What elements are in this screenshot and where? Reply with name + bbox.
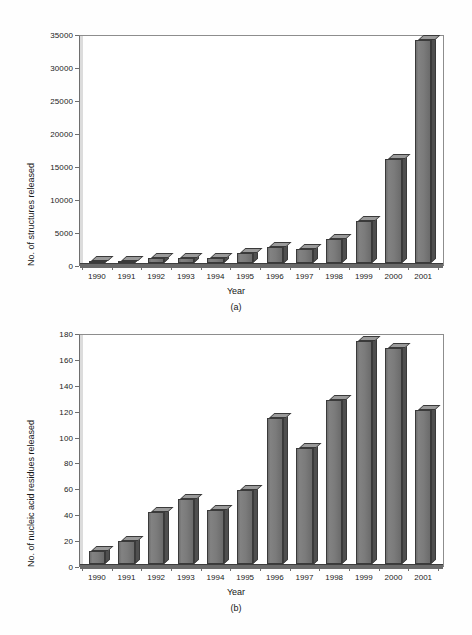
y-tick-label: 5000	[55, 229, 73, 238]
y-tick-mark	[75, 68, 79, 69]
bar-1998	[326, 400, 343, 564]
figure-caption-a: (a)	[0, 302, 472, 312]
bar-front-face	[385, 348, 402, 564]
y-tick-label: 0	[68, 563, 73, 572]
x-tick-label: 1996	[266, 573, 284, 582]
figure-caption-b: (b)	[0, 603, 472, 613]
y-tick-mark	[75, 134, 79, 135]
bar-1995	[237, 490, 254, 564]
bar-1990	[89, 551, 106, 564]
y-tick-mark	[75, 515, 79, 516]
y-tick-mark	[75, 438, 79, 439]
bar-1996	[267, 247, 284, 264]
x-tick-label: 1992	[147, 573, 165, 582]
backwall-a	[80, 36, 83, 265]
bar-1997	[296, 448, 313, 565]
bar-front-face	[178, 499, 195, 564]
bar-front-face	[237, 490, 254, 564]
y-tick-label: 35000	[50, 31, 73, 40]
bar-2000	[385, 348, 402, 564]
bar-front-face	[148, 512, 165, 564]
y-tick-label: 15000	[50, 163, 73, 172]
y-tick-label: 30000	[50, 64, 73, 73]
y-tick-mark	[75, 35, 79, 36]
bar-1999	[356, 341, 373, 564]
y-axis-label-a: No. of structures released	[26, 163, 36, 266]
x-tick-label: 1998	[325, 272, 343, 281]
x-tick-label: 2001	[414, 272, 432, 281]
bar-1991	[118, 541, 135, 564]
bar-1991	[118, 261, 135, 263]
x-tick-label: 1993	[177, 272, 195, 281]
y-tick-label: 80	[64, 459, 73, 468]
bar-2001	[415, 40, 432, 263]
y-tick-mark	[75, 360, 79, 361]
x-tick-label: 1997	[296, 573, 314, 582]
bar-front-face	[207, 258, 224, 263]
bar-side-face	[194, 495, 199, 564]
y-tick-mark	[75, 167, 79, 168]
bar-front-face	[385, 159, 402, 263]
y-tick-mark	[75, 567, 79, 568]
bar-side-face	[224, 505, 229, 564]
bar-1994	[207, 258, 224, 263]
x-tick-label: 1999	[355, 573, 373, 582]
bar-front-face	[326, 239, 343, 263]
y-tick-label: 140	[59, 381, 73, 390]
bar-side-face	[431, 35, 436, 263]
bar-1999	[356, 221, 373, 263]
x-tick-label: 1994	[207, 573, 225, 582]
backwall-b	[80, 335, 83, 566]
y-tick-label: 180	[59, 330, 73, 339]
x-tick-label: 1995	[236, 272, 254, 281]
bar-front-face	[118, 541, 135, 564]
bar-side-face	[402, 154, 407, 263]
y-axis-label-b: No. of nucleic acid residues released	[26, 420, 36, 567]
bar-1992	[148, 258, 165, 263]
x-tick-label: 1990	[88, 573, 106, 582]
y-tick-label: 60	[64, 485, 73, 494]
bar-side-face	[372, 337, 377, 564]
y-tick-label: 160	[59, 355, 73, 364]
figure-a: 05000100001500020000250003000035000 1990…	[0, 0, 472, 318]
y-tick-label: 40	[64, 511, 73, 520]
figure-page: 05000100001500020000250003000035000 1990…	[0, 0, 472, 635]
bar-2000	[385, 159, 402, 263]
x-axis-label-a: Year	[0, 286, 472, 296]
y-tick-mark	[75, 541, 79, 542]
bar-front-face	[415, 40, 432, 263]
bar-front-face	[89, 261, 106, 263]
bar-1990	[89, 261, 106, 263]
x-tick-label: 1995	[236, 573, 254, 582]
x-tick-label: 2000	[385, 272, 403, 281]
bar-front-face	[296, 249, 313, 263]
x-tick-label: 1998	[325, 573, 343, 582]
bar-front-face	[148, 258, 165, 263]
bar-1997	[296, 249, 313, 263]
bar-side-face	[342, 395, 347, 564]
bar-front-face	[326, 400, 343, 564]
x-tick-label: 2001	[414, 573, 432, 582]
x-tick-label: 1996	[266, 272, 284, 281]
x-tick-label: 1992	[147, 272, 165, 281]
y-tick-mark	[75, 412, 79, 413]
y-tick-mark	[75, 463, 79, 464]
y-tick-mark	[75, 101, 79, 102]
bar-front-face	[207, 510, 224, 564]
x-tick-label: 1999	[355, 272, 373, 281]
y-tick-label: 20	[64, 537, 73, 546]
y-tick-label: 10000	[50, 196, 73, 205]
bar-front-face	[356, 221, 373, 263]
x-tick-label: 1993	[177, 573, 195, 582]
y-tick-mark	[75, 386, 79, 387]
x-axis-label-b: Year	[0, 587, 472, 597]
y-tick-label: 25000	[50, 97, 73, 106]
bar-1995	[237, 253, 254, 263]
bar-side-face	[283, 413, 288, 564]
x-tick-label: 1991	[118, 573, 136, 582]
x-tick-label: 1997	[296, 272, 314, 281]
bar-1993	[178, 258, 195, 263]
y-tick-label: 0	[68, 262, 73, 271]
y-tick-label: 100	[59, 433, 73, 442]
bar-front-face	[296, 448, 313, 565]
